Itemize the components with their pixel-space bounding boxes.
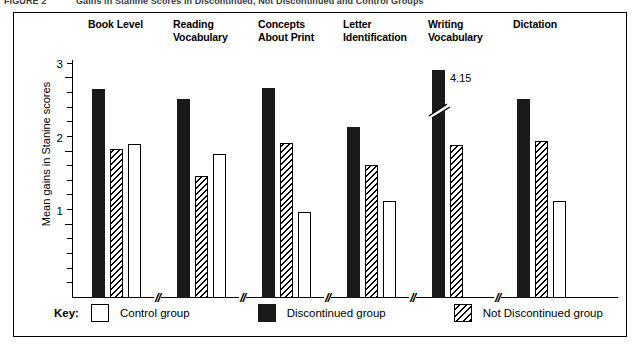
y-tick-minor [67,136,72,137]
y-axis-title: Mean gains in Stanine scores [40,54,52,254]
y-tick-minor [67,107,72,108]
y-tick-minor [67,268,72,269]
column-header: Book Level [88,18,143,31]
y-tick-minor [67,238,72,239]
bar-hatch [365,165,378,298]
column-header: WritingVocabulary [428,18,483,43]
bar-hatch [195,176,208,298]
y-tick-minor [67,180,72,181]
legend-entry: Not Discontinued group [454,304,603,322]
column-header-line: Reading [173,18,228,31]
bar-hatch [535,141,548,298]
bar-open [553,201,566,298]
y-axis-line [72,60,73,298]
bar-hatch [280,143,293,298]
axis-break-mark: // [154,292,161,304]
axis-break-mark: // [409,292,416,304]
bar-solid [347,127,360,298]
y-tick-minor [67,209,72,210]
bar-open [298,212,311,298]
legend-entries: Control groupDiscontinued groupNot Disco… [91,304,603,322]
legend-entry: Control group [91,304,190,322]
y-tick-minor [67,121,72,122]
bar-solid [177,99,190,298]
axis-break-mark: // [239,292,246,304]
column-header-line: Vocabulary [428,31,483,44]
y-tick-minor [67,165,72,166]
y-tick-label: 1 [57,205,63,217]
bar-open [383,201,396,298]
chart-legend: Key: Control groupDiscontinued groupNot … [54,304,603,322]
legend-swatch-hatch [454,304,472,322]
column-header-line: Book Level [88,18,143,31]
legend-key-label: Key: [54,307,79,319]
y-tick-label: 2 [57,132,63,144]
column-header-line: Vocabulary [173,31,228,44]
bar-solid [262,88,275,298]
legend-label: Control group [120,307,190,319]
chart-plate: Book LevelReadingVocabularyConceptsAbout… [13,12,627,337]
legend-label: Not Discontinued group [483,307,603,319]
y-tick-minor [67,282,72,283]
column-header: ConceptsAbout Print [258,18,314,43]
bar-solid [432,70,445,298]
figure-number: FIGURE 2 [4,0,76,6]
figure-caption: FIGURE 2Gains in Stanine Scores in Disco… [4,0,636,8]
bar-solid [92,89,105,298]
legend-swatch-solid [258,304,276,322]
y-tick-minor [67,92,72,93]
column-headers: Book LevelReadingVocabularyConceptsAbout… [14,13,628,59]
column-header: Dictation [513,18,557,31]
figure-root: FIGURE 2Gains in Stanine Scores in Disco… [0,0,640,350]
column-header-line: Identification [343,31,407,44]
bar-open [213,154,226,298]
bar-hatch [110,149,123,298]
column-header-line: Concepts [258,18,314,31]
y-tick-minor [67,253,72,254]
y-tick-major [65,224,72,225]
column-header-line: Letter [343,18,407,31]
figure-caption-text: Gains in Stanine Scores in Discontinued,… [76,0,424,6]
column-header-line: Writing [428,18,483,31]
plot-area: 123 4.15 ////////// [72,60,614,298]
y-tick-major [65,151,72,152]
bar-open [128,144,141,298]
column-header-line: About Print [258,31,314,44]
legend-entry: Discontinued group [258,304,386,322]
legend-swatch-open [91,304,109,322]
y-tick-minor [67,194,72,195]
axis-break-mark: // [494,292,501,304]
column-header-line: Dictation [513,18,557,31]
y-tick-label: 3 [57,58,63,70]
bar-solid [517,99,530,298]
bar-value-label: 4.15 [450,72,471,84]
y-tick-major [65,77,72,78]
axis-break-mark: // [324,292,331,304]
column-header: ReadingVocabulary [173,18,228,43]
column-header: LetterIdentification [343,18,407,43]
bar-hatch [450,145,463,298]
legend-label: Discontinued group [287,307,386,319]
y-tick-minor [67,63,72,64]
